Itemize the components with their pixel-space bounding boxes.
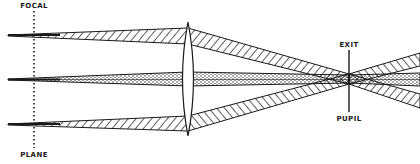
pupil-label: PUPIL <box>336 115 361 123</box>
optical-diagram: FOCAL PLANE EXIT PUPIL <box>0 0 420 164</box>
plane-label: PLANE <box>20 151 48 159</box>
focal-label: FOCAL <box>20 2 48 10</box>
exit-label: EXIT <box>339 41 358 49</box>
